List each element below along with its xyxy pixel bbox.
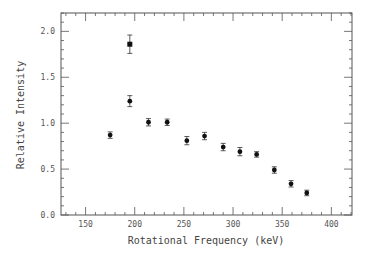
data-point (304, 190, 309, 196)
circle-marker (221, 145, 226, 150)
circle-marker (146, 120, 151, 125)
data-point (146, 119, 151, 126)
x-axis-label: Rotational Frequency (keV) (128, 235, 285, 246)
circle-marker (254, 152, 259, 157)
data-point (127, 96, 132, 107)
y-tick-label: 1.5 (41, 73, 56, 82)
circle-marker (127, 99, 132, 104)
data-point (221, 143, 226, 150)
y-tick-label: 1.0 (41, 119, 56, 128)
circle-marker (238, 149, 243, 154)
x-tick-label: 350 (275, 220, 290, 229)
y-tick-label: 2.0 (41, 27, 56, 36)
y-tick-label: 0.0 (41, 211, 56, 220)
circle-marker (108, 133, 113, 138)
data-point (289, 181, 294, 187)
data-point (272, 167, 277, 173)
circle-marker (272, 168, 277, 173)
data-point (184, 136, 189, 144)
circle-marker (304, 191, 309, 196)
data-point (108, 132, 113, 138)
y-axis-ticks: 0.00.51.01.52.0 (41, 13, 352, 220)
circle-marker (289, 181, 294, 186)
data-point (202, 132, 207, 139)
data-point (127, 35, 132, 53)
circle-marker (202, 134, 207, 139)
x-tick-label: 300 (226, 220, 241, 229)
plot-frame (61, 13, 352, 215)
x-tick-label: 200 (128, 220, 143, 229)
x-axis-ticks: 150200250300350400 (66, 13, 351, 229)
square-marker (127, 42, 132, 47)
plot-border (61, 13, 352, 215)
x-tick-label: 400 (324, 220, 339, 229)
data-points (108, 35, 310, 196)
chart: 150200250300350400 0.00.51.01.52.0 Rotat… (0, 0, 372, 253)
y-axis-label: Relative Intensity (15, 61, 26, 169)
circle-marker (165, 120, 170, 125)
data-point (254, 152, 259, 158)
x-tick-label: 150 (78, 220, 93, 229)
circle-marker (184, 138, 189, 143)
data-point (237, 148, 242, 156)
y-tick-label: 0.5 (41, 165, 56, 174)
data-point (165, 119, 170, 125)
x-tick-label: 250 (177, 220, 192, 229)
